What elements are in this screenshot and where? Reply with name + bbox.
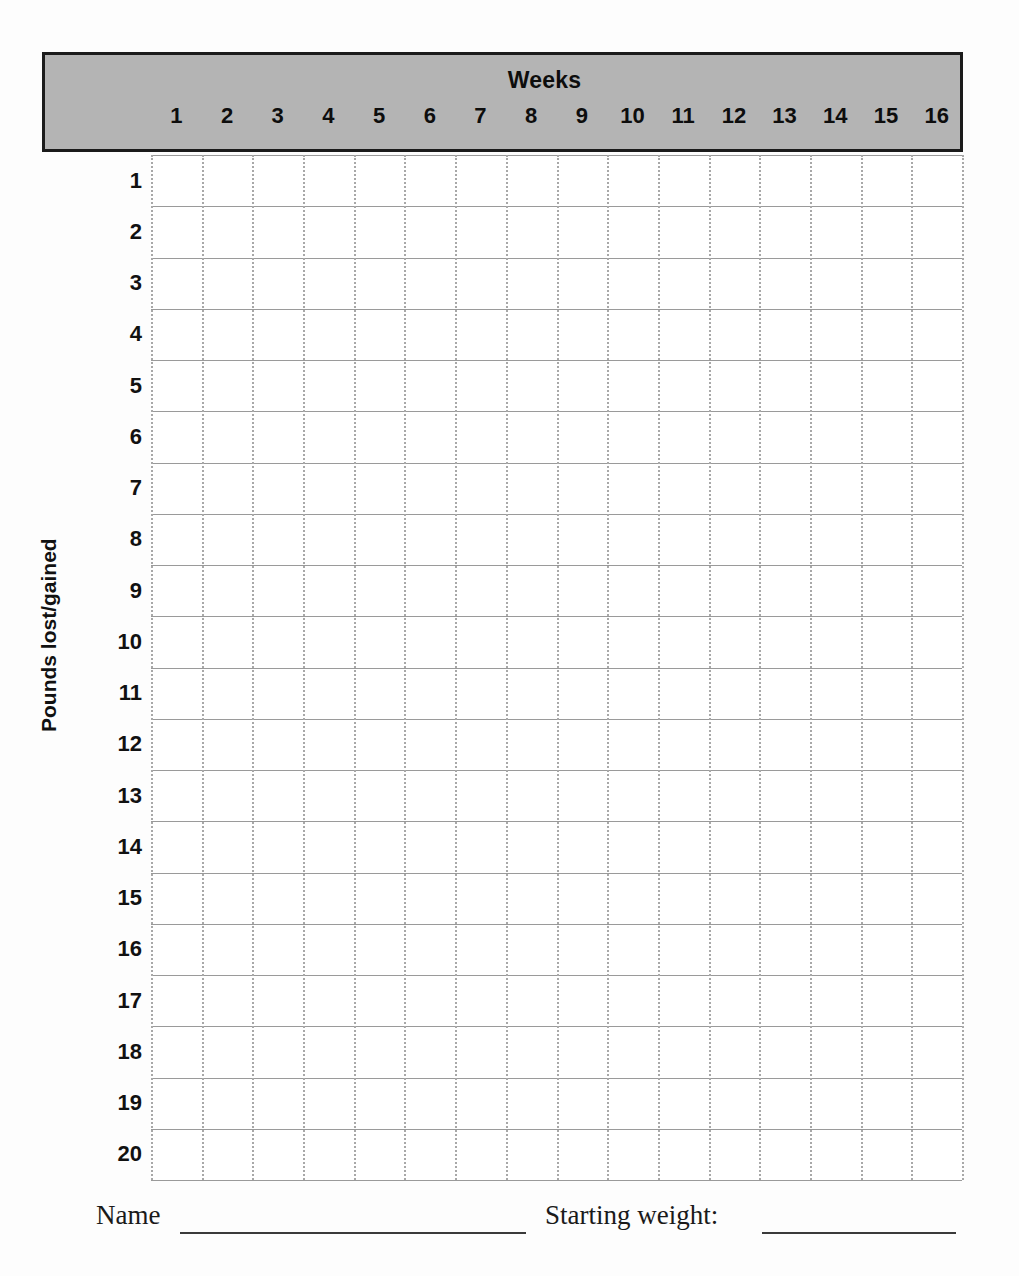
grid-vertical-line (252, 155, 255, 1180)
week-column-label: 14 (810, 101, 861, 135)
row-label: 10 (92, 616, 144, 667)
row-label-column: 1 2 3 4 5 6 7 8 9 10 11 12 13 14 15 16 1… (92, 155, 144, 1180)
y-axis-title: Pounds lost/gained (37, 552, 61, 732)
row-label: 18 (92, 1026, 144, 1077)
starting-weight-label: Starting weight: (545, 1200, 718, 1231)
grid-vertical-line (303, 155, 306, 1180)
grid-vertical-line (557, 155, 560, 1180)
row-label: 7 (92, 463, 144, 514)
footer-fields: Name Starting weight: (0, 1196, 1019, 1256)
grid-vertical-line (607, 155, 610, 1180)
grid-vertical-line (506, 155, 509, 1180)
grid-vertical-line (658, 155, 661, 1180)
grid-vertical-line (861, 155, 864, 1180)
week-column-label: 2 (202, 101, 253, 135)
row-label: 9 (92, 565, 144, 616)
row-label: 16 (92, 924, 144, 975)
week-column-label: 6 (404, 101, 455, 135)
row-label: 5 (92, 360, 144, 411)
row-label: 14 (92, 821, 144, 872)
grid-vertical-line (455, 155, 458, 1180)
week-column-label: 11 (658, 101, 709, 135)
week-number-row: 1 2 3 4 5 6 7 8 9 10 11 12 13 14 15 16 (151, 101, 962, 135)
week-column-label: 13 (759, 101, 810, 135)
grid-vertical-line (810, 155, 813, 1180)
week-column-label: 12 (709, 101, 760, 135)
grid-vertical-line (759, 155, 762, 1180)
row-label: 6 (92, 411, 144, 462)
week-column-label: 3 (252, 101, 303, 135)
grid-vertical-line (962, 155, 965, 1180)
row-label: 12 (92, 719, 144, 770)
week-column-label: 9 (557, 101, 608, 135)
tracking-grid[interactable] (151, 155, 962, 1180)
grid-vertical-line (354, 155, 357, 1180)
week-column-label: 1 (151, 101, 202, 135)
weeks-header-bar: Weeks 1 2 3 4 5 6 7 8 9 10 11 12 13 14 1… (42, 52, 963, 152)
row-label: 1 (92, 155, 144, 206)
row-label: 19 (92, 1078, 144, 1129)
grid-vertical-line (911, 155, 914, 1180)
row-label: 15 (92, 873, 144, 924)
row-label: 4 (92, 309, 144, 360)
grid-vertical-line (202, 155, 205, 1180)
row-label: 11 (92, 668, 144, 719)
week-column-label: 10 (607, 101, 658, 135)
row-label: 2 (92, 206, 144, 257)
week-column-label: 15 (861, 101, 912, 135)
week-column-label: 4 (303, 101, 354, 135)
starting-weight-input[interactable] (762, 1232, 956, 1234)
grid-vertical-line (151, 155, 154, 1180)
weeks-title: Weeks (87, 67, 1002, 94)
row-label: 8 (92, 514, 144, 565)
row-label: 17 (92, 975, 144, 1026)
worksheet-page: Weeks 1 2 3 4 5 6 7 8 9 10 11 12 13 14 1… (0, 0, 1019, 1276)
row-label: 13 (92, 770, 144, 821)
week-column-label: 7 (455, 101, 506, 135)
grid-vertical-line (709, 155, 712, 1180)
week-column-label: 5 (354, 101, 405, 135)
name-input[interactable] (180, 1232, 526, 1234)
week-column-label: 8 (506, 101, 557, 135)
week-column-label: 16 (911, 101, 962, 135)
row-label: 3 (92, 258, 144, 309)
name-label: Name (96, 1200, 160, 1231)
grid-vertical-line (404, 155, 407, 1180)
grid-horizontal-line (151, 1180, 962, 1181)
row-label: 20 (92, 1129, 144, 1180)
